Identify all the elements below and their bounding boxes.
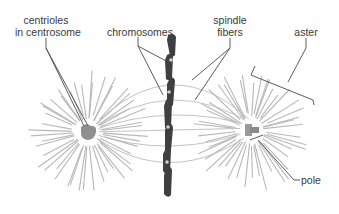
spindle-fibers-label: spindle fibers — [212, 14, 248, 38]
pole-label: pole — [301, 174, 327, 186]
chromosomes-label: chromosomes — [107, 26, 169, 38]
centrioles-label: centrioles in centrosome — [15, 14, 77, 38]
left-centrosome — [77, 121, 99, 143]
centrioles-label-line1: centrioles — [15, 14, 77, 26]
aster-label: aster — [290, 26, 322, 38]
right-centrosome — [240, 119, 262, 141]
spindle-label-line1: spindle — [212, 14, 248, 26]
mitosis-diagram: centrioles in centrosome chromosomes spi… — [0, 0, 339, 214]
spindle-label-line2: fibers — [212, 26, 248, 38]
centrioles-label-line2: in centrosome — [15, 26, 77, 38]
